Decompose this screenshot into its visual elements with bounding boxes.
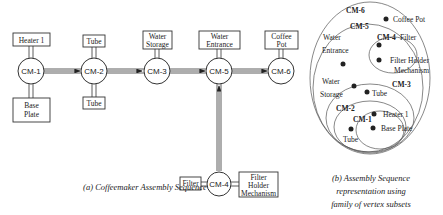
svg-text:Water: Water: [322, 77, 340, 86]
part-water-entrance: Water Entrance: [199, 31, 240, 49]
caption-b-line2: representation using: [336, 186, 406, 196]
part-tube-top: Tube: [83, 35, 105, 47]
svg-text:Filter Holder: Filter Holder: [390, 56, 429, 65]
part-heater-1: Heater 1: [13, 33, 50, 46]
svg-text:Mechanism: Mechanism: [394, 66, 429, 75]
vertex-heater: [372, 112, 377, 117]
svg-text:Tube: Tube: [86, 99, 102, 108]
svg-text:Entrance: Entrance: [206, 40, 233, 49]
svg-text:CM-5: CM-5: [209, 67, 229, 76]
vertex-coffee-pot: [384, 17, 389, 22]
label-cm-5: CM-5: [350, 22, 369, 31]
svg-text:Pot: Pot: [276, 40, 287, 49]
assembly-sequence-graph: Heater 1 Base Plate Tube Tube Water Stor…: [13, 31, 298, 198]
svg-text:Plate: Plate: [24, 110, 40, 119]
svg-text:Filter: Filter: [400, 33, 417, 42]
node-cm-4: CM-4: [207, 172, 231, 196]
vertex-tube-1: [365, 90, 370, 95]
label-cm-6: CM-6: [346, 6, 365, 15]
node-cm-2: CM-2: [81, 58, 107, 84]
svg-text:Tube: Tube: [86, 37, 102, 46]
caption-a: (a) Coffeemaker Assembly Sequence: [83, 182, 207, 192]
svg-text:CM-2: CM-2: [84, 67, 104, 76]
svg-text:Storage: Storage: [146, 40, 170, 49]
node-cm-6: CM-6: [268, 58, 294, 84]
node-cm-3: CM-3: [144, 58, 170, 84]
vertex-filter-holder: [377, 58, 382, 63]
part-coffee-pot: Coffee Pot: [265, 31, 298, 49]
part-filter-holder-mechanism-final: Filter Holder Mechanism: [239, 172, 278, 198]
vertex-filter: [377, 43, 382, 48]
label-cm-1: CM-1: [353, 115, 372, 124]
label-cm-3: CM-3: [392, 80, 411, 89]
vertex-tube-2: [349, 127, 354, 132]
svg-text:CM-6: CM-6: [271, 67, 291, 76]
svg-text:Storage: Storage: [320, 90, 344, 99]
svg-text:Heater 1: Heater 1: [19, 36, 45, 45]
part-tube-bottom: Tube: [83, 97, 105, 109]
svg-text:CM-4: CM-4: [209, 180, 229, 189]
svg-text:Base Plate: Base Plate: [381, 124, 413, 133]
label-cm-4: CM-4: [377, 33, 396, 42]
label-cm-2: CM-2: [336, 104, 355, 113]
svg-text:Heater 1: Heater 1: [383, 110, 409, 119]
part-base-plate: Base Plate: [13, 98, 50, 122]
svg-text:CM-1: CM-1: [21, 67, 41, 76]
caption-b-line1: (b) Assembly Sequence: [332, 173, 410, 183]
node-cm-5: CM-5: [206, 58, 232, 84]
svg-text:Coffee Pot: Coffee Pot: [393, 15, 426, 24]
assembly-diagram: Heater 1 Base Plate Tube Tube Water Stor…: [0, 0, 443, 215]
node-cm-1: CM-1: [18, 58, 44, 84]
svg-text:Base: Base: [24, 101, 39, 110]
part-water-storage: Water Storage: [143, 31, 172, 49]
svg-text:Water: Water: [323, 33, 341, 42]
svg-text:CM-3: CM-3: [147, 67, 167, 76]
vertex-base-plate: [371, 126, 376, 131]
vertex-subset-family: CM-6 CM-5 CM-4 CM-3 CM-2 CM-1 Coffee Pot…: [310, 2, 430, 154]
svg-text:Mechanism: Mechanism: [241, 189, 276, 198]
svg-text:Tube: Tube: [372, 89, 388, 98]
vertex-water-storage: [352, 84, 357, 89]
caption-b-line3: family of vertex subsets: [331, 199, 411, 209]
vertex-water-entrance: [341, 62, 346, 67]
svg-text:Tube: Tube: [343, 135, 359, 144]
svg-text:Entrance: Entrance: [322, 46, 349, 55]
